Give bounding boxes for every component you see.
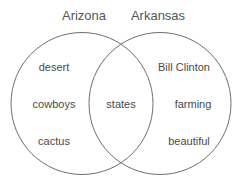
- arizona-title: Arizona: [62, 8, 106, 23]
- arizona-item-desert: desert: [39, 61, 70, 73]
- arkansas-item-beautiful: beautiful: [168, 135, 210, 147]
- arkansas-item-bill-clinton: Bill Clinton: [158, 61, 210, 73]
- arkansas-title: Arkansas: [131, 8, 185, 23]
- arizona-item-cactus: cactus: [38, 135, 70, 147]
- arizona-item-cowboys: cowboys: [33, 98, 76, 110]
- arkansas-item-farming: farming: [175, 98, 212, 110]
- intersection-item-states: states: [106, 98, 135, 110]
